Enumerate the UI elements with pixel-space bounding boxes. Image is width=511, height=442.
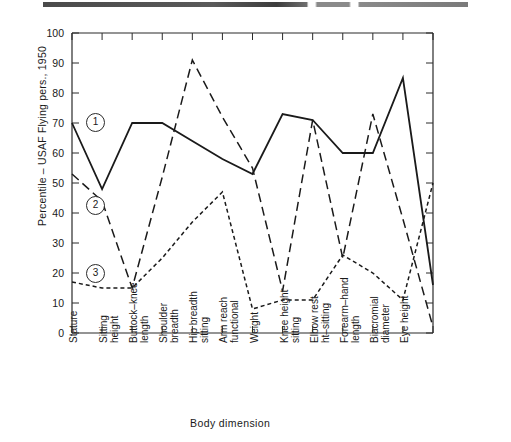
axes-group [72, 33, 433, 333]
body-dimension-percentile-chart: Percentile – USAF Flying pers., 1950 100… [0, 0, 511, 442]
series-line-1 [72, 78, 433, 285]
x-axis-title: Body dimension [190, 417, 270, 429]
series-line-3 [72, 183, 433, 309]
series-line-2 [72, 60, 433, 327]
series-badge-2: 2 [86, 196, 105, 215]
series-badge-1: 1 [86, 113, 105, 132]
series-badge-3: 3 [86, 264, 105, 283]
series-group [72, 60, 433, 327]
plot-area [0, 0, 511, 442]
